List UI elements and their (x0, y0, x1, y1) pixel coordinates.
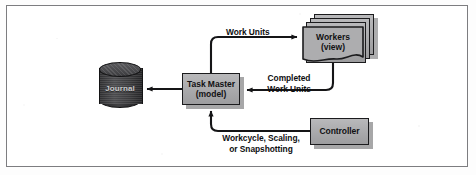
workers-label-line1: Workers (316, 32, 350, 42)
node-workers: Workers (view) (302, 14, 376, 70)
edge-label-completed-line2: Work Units (267, 84, 311, 94)
edge-label-work-units: Work Units (226, 27, 270, 38)
edge-task-master-to-workers (211, 37, 297, 73)
journal-cylinder-top (99, 62, 141, 77)
diagram-canvas: Journal Task Master (model) Controller W… (0, 0, 476, 175)
node-controller: Controller (310, 118, 369, 145)
workers-label: Workers (view) (302, 32, 364, 52)
edge-label-completed-work-units: Completed Work Units (252, 73, 326, 94)
node-task-master: Task Master (model) (182, 73, 240, 105)
edge-label-completed-line1: Completed (268, 73, 311, 83)
controller-label: Controller (319, 126, 359, 136)
journal-label: Journal (99, 84, 141, 93)
edge-label-workcycle-line1: Workcycle, Scaling, (222, 133, 300, 143)
edge-label-workcycle-scaling: Workcycle, Scaling, or Snapshotting (205, 133, 317, 154)
edge-controller-to-task-master (211, 111, 310, 131)
task-master-label-line1: Task Master (187, 79, 235, 89)
task-master-label-line2: (model) (196, 89, 226, 99)
node-journal: Journal (99, 62, 141, 109)
workers-label-line2: (view) (321, 42, 345, 52)
edge-label-workcycle-line2: or Snapshotting (229, 144, 292, 154)
